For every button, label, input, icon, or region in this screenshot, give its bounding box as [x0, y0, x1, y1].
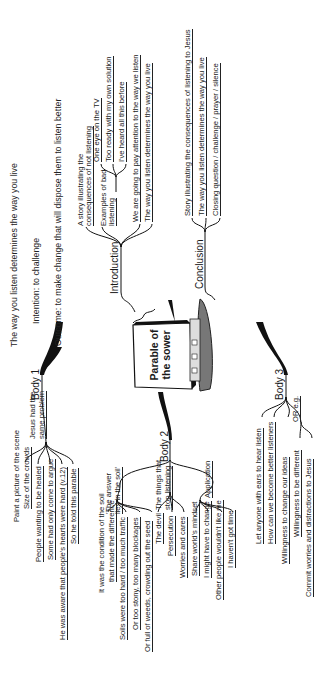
body2-things-point-1: The devil [154, 513, 164, 544]
body1-point-3: Some had only come to argue [46, 459, 56, 560]
body2-answer-point-3: Or full of weeds, crowding out the seed [143, 521, 153, 652]
body2-answer-point-1: Soils were too hard / too much traffic [118, 517, 128, 640]
mind-map-canvas: Parable of the sower The way you listen … [0, 0, 317, 692]
body3-or-point-2: Commit worries and distractions to Jesus [304, 459, 314, 597]
body2-answer-intro-2: that made the difference [107, 500, 117, 582]
conclusion-point-2: The way you listen determines the way yo… [197, 57, 207, 216]
intro-example-2: Too ready with my own solution [104, 56, 114, 162]
body2-things-line2: stop listening [163, 466, 173, 510]
body2-application-point-4: I haven't got time [226, 510, 236, 568]
body3-point-1: Let anyone with ears to hear listen [254, 428, 264, 544]
body1-point-4: He was aware that people's hearts were h… [58, 467, 68, 640]
body1-point-2: People wanting to be healed [34, 466, 44, 562]
body1-intro: Paint a picture of the scene [12, 430, 21, 522]
body2-things-line1: The things that [154, 460, 163, 510]
intro-examples-line2: listening [107, 198, 117, 226]
body2-things-point-2: Persecution [166, 516, 176, 556]
conclusion-point-1: Story illustrating the consequences of l… [183, 29, 193, 216]
book-and-seed-tray-icon [130, 295, 218, 395]
body2-application-label: Application [203, 461, 213, 498]
body1-sublabel-line2: same problem [37, 391, 47, 439]
central-topic-line1: Parable of [148, 329, 160, 381]
intention-text: Intention: to challenge [32, 238, 41, 324]
body2-application-point-1: Share world's mindset [190, 502, 200, 576]
body3-or-point-1: Willingness to be different [292, 450, 302, 537]
intro-example-3: I've heard all this before [117, 82, 127, 162]
branch-conclusion[interactable]: Conclusion [195, 240, 204, 289]
body3-point-2: How can we become better listeners [266, 422, 276, 544]
branch-body-3[interactable]: Body 3 [275, 369, 284, 400]
theme-text: The way you listen determines the way yo… [10, 163, 19, 347]
body2-application-point-2: I might have to change [202, 501, 212, 578]
body1-sublabel-line1: Jesus had the [28, 392, 37, 439]
conclusion-point-3: Closing question / challenge / prayer / … [211, 63, 221, 216]
body2-application-point-3: Other people wouldn't like me [214, 500, 224, 600]
intro-point-2: The way you listen determines the way yo… [143, 63, 153, 222]
body2-answer-intro-1: It was the condition of the soil [97, 493, 106, 593]
intro-point-1: We are going to pay attention to the way… [131, 55, 141, 222]
branch-introduction[interactable]: Introduction [110, 242, 119, 294]
body1-point-1: Size of the crowds [22, 447, 32, 509]
body3-or-label: OR e.g. [291, 396, 301, 422]
outcome-text: Outcome: to make change that will dispos… [54, 99, 63, 346]
central-topic[interactable]: Parable of the sower [130, 295, 218, 395]
body1-point-5: So he told this parable [69, 468, 79, 544]
central-topic-line2: the sower [160, 329, 172, 381]
body2-things-point-3: Worries and cares [178, 517, 188, 578]
body2-answer-point-2: Or too stony, too many blockages [131, 517, 141, 630]
intro-example-1: One eye on the TV [92, 98, 102, 162]
body3-point-3: Willingness to change our ideas [280, 457, 290, 564]
branch-body-2[interactable]: Body 2 [160, 431, 169, 462]
